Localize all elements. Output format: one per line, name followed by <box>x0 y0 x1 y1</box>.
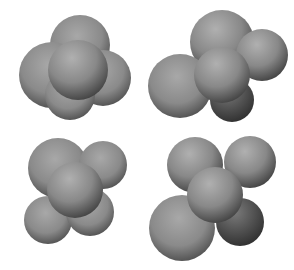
surface-bottom-left <box>24 138 127 244</box>
surface-top-right <box>148 10 288 122</box>
surface-bottom-right <box>149 136 276 261</box>
surface-top-left <box>19 15 131 120</box>
molecular-surfaces-figure <box>0 0 294 270</box>
